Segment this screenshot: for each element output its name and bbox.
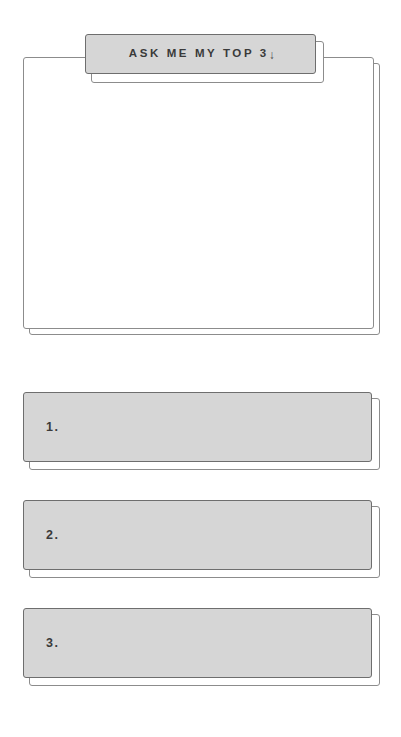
answer-row-3[interactable]: 3. (23, 608, 372, 678)
header-tab-label: ASK ME MY TOP 3 (126, 48, 269, 60)
down-arrow-icon: ↓ (269, 48, 275, 62)
answer-row-2-number: 2. (46, 529, 60, 542)
answer-row-1[interactable]: 1. (23, 392, 372, 462)
note-card[interactable] (23, 57, 374, 329)
worksheet-page: ASK ME MY TOP 3 ↓ 1. 2. 3. (0, 0, 401, 737)
header-tab[interactable]: ASK ME MY TOP 3 ↓ (85, 34, 316, 74)
answer-row-2[interactable]: 2. (23, 500, 372, 570)
answer-row-3-number: 3. (46, 637, 60, 650)
answer-row-1-number: 1. (46, 421, 60, 434)
